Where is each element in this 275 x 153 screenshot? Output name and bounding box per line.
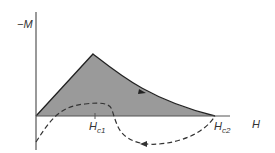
hc1-main: H: [89, 120, 97, 132]
hc2-main: H: [214, 120, 222, 132]
y-axis-label: −M: [17, 18, 33, 30]
hc2-label: Hc2: [214, 120, 231, 135]
arrow-left-icon: [140, 141, 147, 147]
magnetization-diagram: −M H Hc1 Hc2: [0, 0, 275, 153]
hc1-sub: c1: [97, 126, 105, 135]
hc1-label: Hc1: [89, 120, 105, 135]
x-axis-label: H: [252, 118, 260, 130]
hc2-sub: c2: [222, 126, 231, 135]
shaded-region: [36, 54, 215, 116]
